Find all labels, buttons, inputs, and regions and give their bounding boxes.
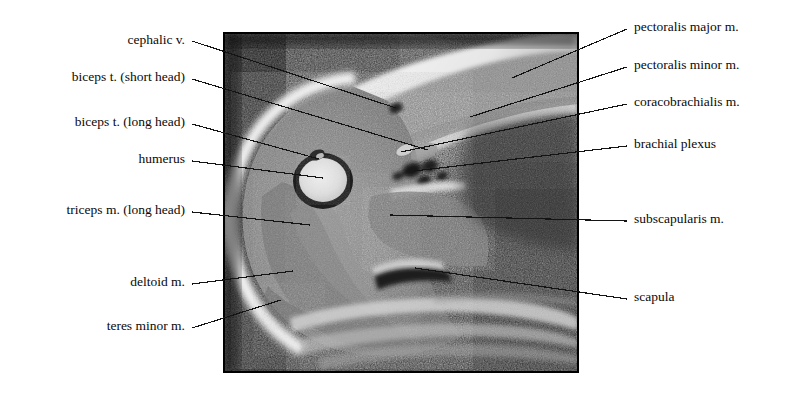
label-pectoralis-minor: pectoralis minor m. [634, 58, 739, 72]
label-pectoralis-major: pectoralis major m. [634, 20, 739, 34]
label-layer: cephalic v.biceps t. (short head)biceps … [0, 0, 787, 402]
label-cephalic-vein: cephalic v. [127, 33, 185, 47]
label-triceps-long-head: triceps m. (long head) [67, 203, 185, 217]
label-biceps-long-head: biceps t. (long head) [75, 115, 185, 129]
label-humerus: humerus [139, 152, 186, 166]
figure-root: cephalic v.biceps t. (short head)biceps … [0, 0, 787, 402]
label-coracobrachialis: coracobrachialis m. [634, 95, 740, 109]
label-scapula: scapula [634, 290, 674, 304]
label-brachial-plexus: brachial plexus [634, 137, 716, 151]
label-deltoid: deltoid m. [130, 275, 185, 289]
label-teres-minor: teres minor m. [107, 319, 185, 333]
label-subscapularis: subscapularis m. [634, 212, 724, 226]
label-biceps-short-head: biceps t. (short head) [72, 70, 185, 84]
